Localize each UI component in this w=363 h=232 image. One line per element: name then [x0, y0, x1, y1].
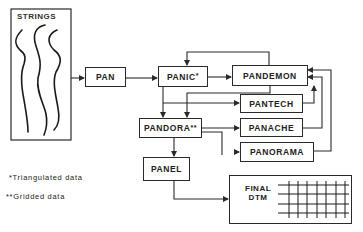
node-pantech-label: PANTECH	[249, 99, 294, 109]
legend-gridded: **Gridded data	[6, 192, 65, 201]
node-panorama: PANORAMA	[240, 142, 314, 162]
edge-pantech-pandemon	[303, 86, 314, 103]
node-pandora-label: PANDORA	[144, 123, 191, 133]
node-panorama-label: PANORAMA	[250, 147, 304, 157]
final-dtm-label: FINAL DTM	[245, 184, 271, 202]
node-pandemon-label: PANDEMON	[243, 71, 297, 81]
strings-label: STRINGS	[17, 12, 56, 21]
node-panache: PANACHE	[240, 118, 303, 137]
node-panic-label: PANIC	[167, 72, 196, 82]
node-panic: PANIC*	[158, 66, 208, 87]
node-pantech: PANTECH	[240, 94, 303, 113]
node-pan: PAN	[85, 67, 126, 87]
legend-triangulated: *Triangulated data	[9, 173, 83, 182]
node-pandora: PANDORA**	[139, 118, 202, 138]
wavy-strings-icon	[16, 25, 61, 135]
strings-box	[11, 9, 71, 140]
node-panel: PANEL	[143, 157, 190, 181]
node-pan-label: PAN	[96, 72, 115, 82]
node-panic-marker: *	[196, 72, 199, 79]
edge-pandora-panorama	[202, 132, 222, 155]
edge-pandemon-panic	[187, 52, 269, 65]
edge-panel-final-dtm	[174, 181, 228, 199]
node-panache-label: PANACHE	[249, 123, 295, 133]
final-dtm-line1: FINAL	[245, 184, 271, 193]
node-pandemon: PANDEMON	[232, 65, 308, 86]
node-pandora-marker: **	[190, 124, 197, 131]
edge-panorama-pandemon	[308, 70, 331, 151]
node-panel-label: PANEL	[151, 164, 182, 174]
final-dtm-line2: DTM	[245, 193, 271, 202]
